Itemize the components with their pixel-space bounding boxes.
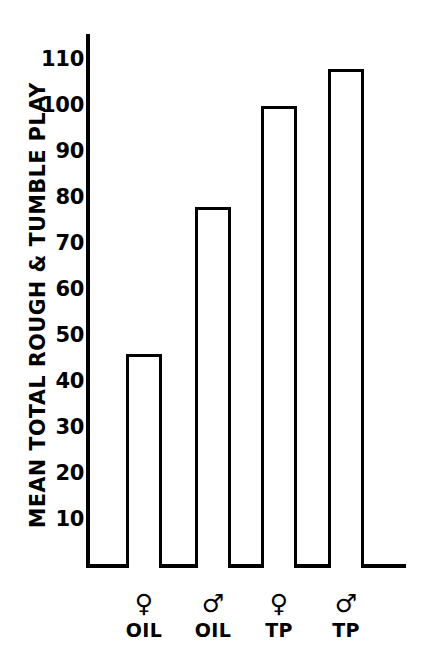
male-symbol-icon: ♂ [306,590,386,618]
bar-chart-figure: MEAN TOTAL ROUGH & TUMBLE PLAY 110100908… [0,0,434,659]
bar [126,354,162,568]
x-tick-treatment-label: TP [306,618,386,642]
x-axis-tick-labels: ♀OIL♂OIL♀TP♂TP [0,572,434,642]
bars-container [0,0,434,659]
x-tick-group: ♀OIL [104,590,184,642]
bar [328,69,364,568]
x-tick-treatment-label: OIL [104,618,184,642]
x-tick-group: ♂TP [306,590,386,642]
female-symbol-icon: ♀ [104,590,184,618]
bar [195,207,231,568]
bar [261,106,297,568]
